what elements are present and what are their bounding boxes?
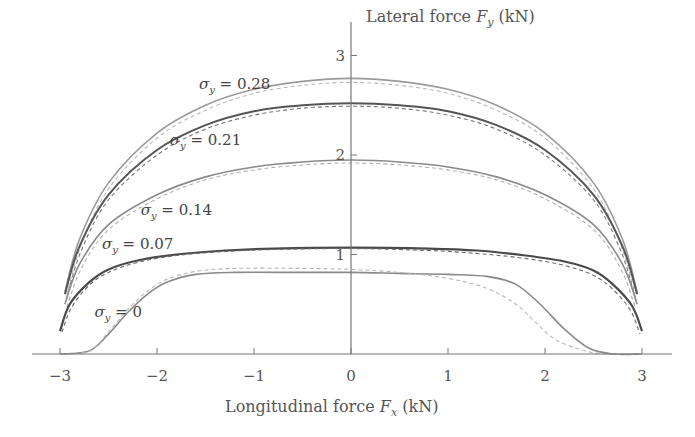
x-tick-label: −2 [146,367,168,385]
x-axis-title: Longitudinal force Fx (kN) [225,397,438,420]
y-tick-label: 3 [335,47,345,65]
x-tick-label: −3 [49,367,71,385]
x-tick-label: 0 [346,367,356,385]
x-tick-label: 2 [540,367,550,385]
curve-label: σy = 0.14 [141,201,212,221]
x-tick-label: 3 [637,367,647,385]
y-tick-label: 1 [335,246,345,264]
curve-label: σy = 0.21 [170,131,241,151]
x-tick-label: −1 [243,367,265,385]
curve-label: σy = 0.28 [199,75,270,95]
chart-container: −3−2−10123123 σy = 0.28σy = 0.21σy = 0.1… [0,0,695,437]
y-tick-label: 2 [335,146,345,164]
x-tick-label: 1 [443,367,453,385]
tire-force-chart: −3−2−10123123 σy = 0.28σy = 0.21σy = 0.1… [0,0,695,437]
curve-label: σy = 0 [94,303,142,323]
axes-group: −3−2−10123123 [32,22,672,385]
curve-label: σy = 0.07 [102,235,173,255]
y-axis-title: Lateral force Fy (kN) [366,7,535,30]
